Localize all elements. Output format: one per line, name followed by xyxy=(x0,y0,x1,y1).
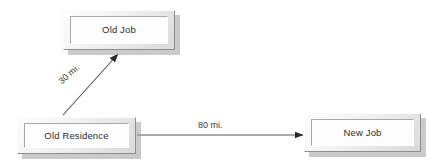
edge-label-80-mi: 80 mi. xyxy=(198,121,223,130)
node-new-job[interactable]: New Job xyxy=(304,113,421,152)
node-label-new-job: New Job xyxy=(343,128,381,138)
node-old-job[interactable]: Old Job xyxy=(63,10,175,50)
node-face: New Job xyxy=(311,119,414,146)
node-face: Old Job xyxy=(70,16,168,44)
node-label-old-residence: Old Residence xyxy=(44,131,108,141)
diagram-canvas: Old Job Old Residence New Job 30 mi. 80 … xyxy=(0,0,430,164)
node-face: Old Residence xyxy=(24,123,129,148)
node-old-residence[interactable]: Old Residence xyxy=(17,117,136,154)
node-label-old-job: Old Job xyxy=(102,25,136,35)
edge-line-residence-to-old-job xyxy=(63,54,118,115)
